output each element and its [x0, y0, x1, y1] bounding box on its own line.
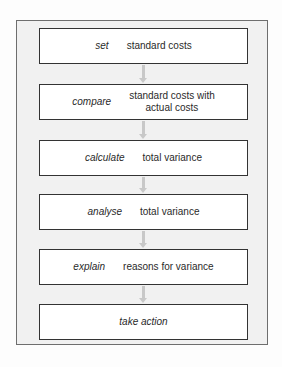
step-description: total variance: [140, 206, 199, 218]
arrow-down-icon: [142, 231, 145, 244]
arrow-down-icon: [142, 177, 145, 189]
step-description: standard costs with actual costs: [129, 90, 215, 114]
arrow-down-icon: [142, 286, 145, 299]
step-verb: explain: [73, 261, 105, 273]
step-verb: compare: [72, 96, 111, 108]
arrow-down-icon: [142, 121, 145, 135]
step-verb: analyse: [88, 206, 122, 218]
step-set-standard-costs: set standard costs: [39, 28, 248, 64]
step-analyse-total-variance: analyse total variance: [39, 194, 248, 230]
step-description-line: actual costs: [146, 102, 199, 113]
step-verb: calculate: [85, 152, 124, 164]
arrow-down-icon: [142, 65, 145, 79]
flowchart-canvas: set standard costs compare standard cost…: [0, 0, 282, 367]
step-description: total variance: [142, 152, 201, 164]
step-verb: set: [95, 40, 108, 52]
step-explain-reasons: explain reasons for variance: [39, 249, 248, 285]
step-compare-costs: compare standard costs with actual costs: [39, 84, 248, 120]
step-description-line: standard costs with: [129, 90, 215, 101]
step-calculate-total-variance: calculate total variance: [39, 140, 248, 176]
step-take-action: take action: [39, 304, 248, 340]
step-description: standard costs: [127, 40, 192, 52]
step-description: reasons for variance: [123, 261, 214, 273]
step-verb: take action: [119, 316, 167, 328]
